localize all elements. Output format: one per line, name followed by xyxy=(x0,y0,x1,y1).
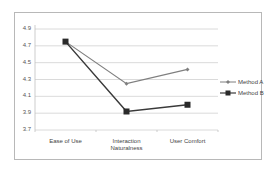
y-tick-label: 4.5 xyxy=(13,59,31,65)
x-tick-label: Ease of Use xyxy=(41,138,91,145)
data-point-marker xyxy=(124,108,130,114)
y-tick-label: 4.7 xyxy=(13,42,31,48)
chart-legend: Method A Method B xyxy=(220,76,264,98)
y-tick-label: 4.3 xyxy=(13,76,31,82)
legend-label: Method B xyxy=(238,90,264,96)
y-tick-label: 3.7 xyxy=(13,126,31,132)
diamond-marker-icon xyxy=(220,79,236,85)
y-tick-label: 4.9 xyxy=(13,25,31,31)
x-tick-label: User Comfort xyxy=(163,138,213,145)
legend-item-method-a: Method A xyxy=(220,76,264,87)
data-point-marker xyxy=(185,102,191,108)
data-point-marker xyxy=(186,67,190,71)
y-tick-label: 3.9 xyxy=(13,109,31,115)
data-point-marker xyxy=(63,39,69,45)
x-tick-label: InteractionNaturalness xyxy=(102,138,152,152)
y-tick-label: 4.1 xyxy=(13,92,31,98)
series-line xyxy=(66,42,188,112)
square-marker-icon xyxy=(220,90,236,96)
legend-item-method-b: Method B xyxy=(220,87,264,98)
legend-label: Method A xyxy=(238,79,263,85)
